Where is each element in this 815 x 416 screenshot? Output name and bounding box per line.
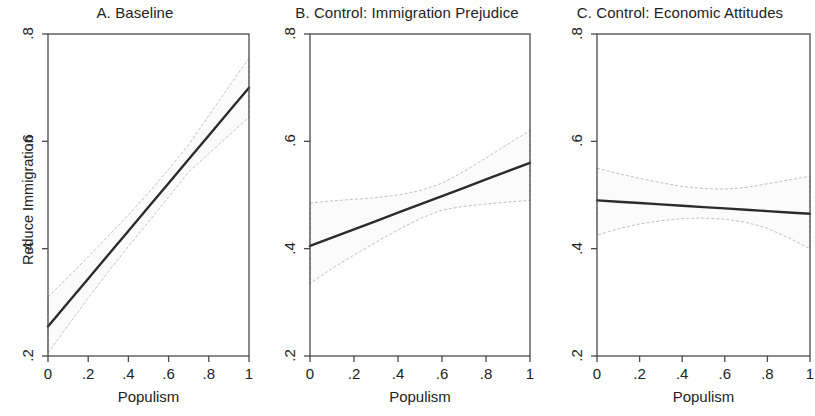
- x-tick-label: 1: [795, 365, 815, 382]
- x-axis-label: Populism: [310, 388, 530, 405]
- x-tick-label: .8: [471, 365, 501, 382]
- x-tick-label: .2: [339, 365, 369, 382]
- y-tick-label: .4: [281, 239, 298, 257]
- x-tick-label: .4: [113, 365, 143, 382]
- y-tick-label: .8: [568, 25, 585, 43]
- y-tick-label: .6: [19, 132, 36, 150]
- x-tick-label: .4: [667, 365, 697, 382]
- x-tick-label: 0: [295, 365, 325, 382]
- y-tick-label: .2: [19, 347, 36, 365]
- y-tick-label: .2: [568, 347, 585, 365]
- fit-line-a: [48, 88, 249, 327]
- x-tick-label: .6: [427, 365, 457, 382]
- x-tick-label: .8: [752, 365, 782, 382]
- plot-canvas: [0, 0, 815, 416]
- x-tick-label: 0: [33, 365, 63, 382]
- y-tick-label: .4: [568, 239, 585, 257]
- y-tick-label: .6: [281, 132, 298, 150]
- x-axis-label: Populism: [597, 388, 810, 405]
- x-axis-label: Populism: [48, 388, 249, 405]
- y-tick-label: .8: [19, 25, 36, 43]
- panel-plot-c: [591, 34, 810, 362]
- confidence-band-c: [597, 168, 810, 249]
- confidence-band-b: [310, 131, 530, 284]
- x-tick-label: .2: [625, 365, 655, 382]
- y-tick-label: .6: [568, 132, 585, 150]
- x-tick-label: 1: [515, 365, 545, 382]
- x-tick-label: 1: [234, 365, 264, 382]
- y-tick-label: .8: [281, 25, 298, 43]
- x-tick-label: .6: [154, 365, 184, 382]
- panel-plot-a: [42, 34, 249, 362]
- panel-plot-b: [304, 34, 530, 362]
- x-tick-label: .8: [194, 365, 224, 382]
- figure-panel-group: Reduce Immigration A. Baseline B. Contro…: [0, 0, 815, 416]
- x-tick-label: .6: [710, 365, 740, 382]
- x-tick-label: 0: [582, 365, 612, 382]
- x-tick-label: .2: [73, 365, 103, 382]
- y-tick-label: .4: [19, 239, 36, 257]
- y-tick-label: .2: [281, 347, 298, 365]
- x-tick-label: .4: [383, 365, 413, 382]
